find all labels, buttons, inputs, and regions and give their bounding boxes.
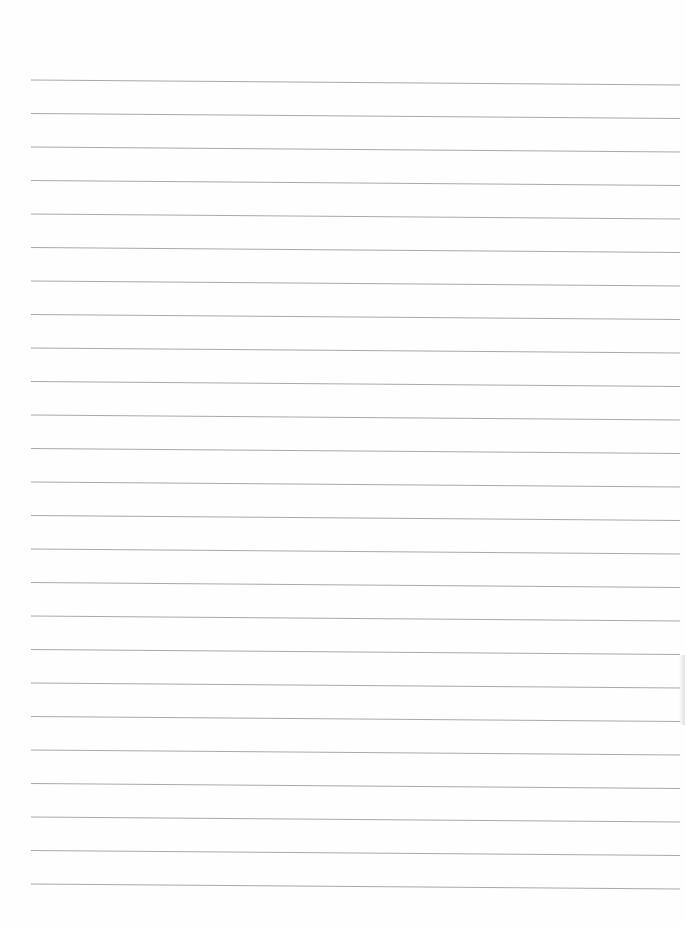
ruled-line <box>31 549 680 554</box>
ruled-line <box>31 516 680 521</box>
ruled-line <box>31 449 680 454</box>
ruled-line <box>31 214 680 219</box>
ruled-line <box>31 348 680 353</box>
ruled-line <box>31 281 680 286</box>
ruled-line <box>31 382 680 387</box>
ruled-line <box>31 482 680 487</box>
ruled-line <box>31 315 680 320</box>
ruled-line <box>31 784 680 789</box>
ruled-line <box>31 248 680 253</box>
ruled-line <box>31 583 680 588</box>
ruled-line <box>31 884 680 889</box>
ruled-lines <box>0 0 685 926</box>
ruled-line <box>31 616 680 621</box>
ruled-line <box>31 80 680 85</box>
ruled-line <box>31 114 680 119</box>
ruled-line <box>31 181 680 186</box>
ruled-line <box>31 147 680 152</box>
page-edge-shadow <box>679 655 685 725</box>
ruled-line <box>31 750 680 755</box>
ruled-line <box>31 650 680 655</box>
ruled-line <box>31 817 680 822</box>
ruled-line <box>31 683 680 688</box>
ruled-line <box>31 717 680 722</box>
ruled-line <box>31 415 680 420</box>
ruled-line <box>31 851 680 856</box>
lined-paper-page <box>0 0 685 926</box>
